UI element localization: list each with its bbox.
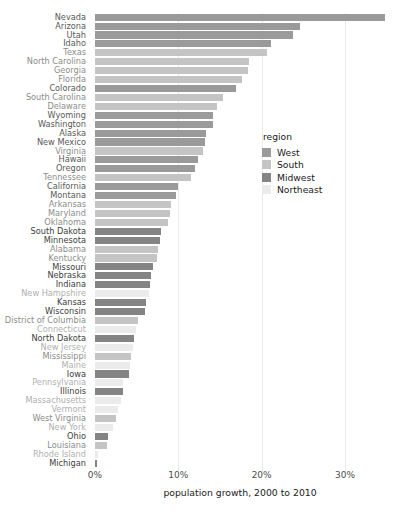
bar-row — [95, 102, 385, 111]
bar-row — [95, 263, 385, 272]
bar-row — [95, 281, 385, 290]
legend-label: Northeast — [277, 184, 322, 195]
category-axis-labels: NevadaArizonaUtahIdahoTexasNorth Carolin… — [0, 13, 90, 468]
bar-row — [95, 31, 385, 40]
bar-row — [95, 272, 385, 281]
bar — [95, 353, 131, 360]
bar-row — [95, 67, 385, 76]
bar-row — [95, 40, 385, 49]
bar-row — [95, 218, 385, 227]
bar — [95, 40, 271, 47]
x-tick-label: 0% — [88, 470, 102, 480]
bar-row — [95, 84, 385, 93]
bar-row — [95, 423, 385, 432]
bar — [95, 415, 116, 422]
bar — [95, 433, 108, 440]
bar — [95, 308, 145, 315]
legend-item-northeast[interactable]: Northeast — [262, 184, 358, 197]
bar — [95, 442, 107, 449]
bar — [95, 299, 146, 306]
plot-area — [95, 13, 385, 468]
legend-swatch-icon — [262, 160, 271, 169]
bar-row — [95, 49, 385, 58]
bar — [95, 228, 161, 235]
bar-row — [95, 13, 385, 22]
bar-row — [95, 236, 385, 245]
bar-row — [95, 325, 385, 334]
bar — [95, 290, 149, 297]
bar — [95, 246, 158, 253]
bar-row — [95, 227, 385, 236]
bar — [95, 201, 171, 208]
bar — [95, 23, 300, 30]
x-tick-label: 30% — [335, 470, 355, 480]
legend-item-west[interactable]: West — [262, 146, 358, 159]
bar-row — [95, 432, 385, 441]
bar — [95, 388, 123, 395]
bar-row — [95, 22, 385, 31]
bar — [95, 165, 195, 172]
bar — [95, 85, 236, 92]
legend-items: WestSouthMidwestNortheast — [262, 146, 358, 196]
bar — [95, 76, 242, 83]
bar-row — [95, 120, 385, 129]
legend-swatch-icon — [262, 148, 271, 157]
population-growth-bar-chart: NevadaArizonaUtahIdahoTexasNorth Carolin… — [0, 0, 400, 514]
x-tick-label: 20% — [252, 470, 272, 480]
legend-item-midwest[interactable]: Midwest — [262, 171, 358, 184]
bar — [95, 138, 205, 145]
bar — [95, 121, 213, 128]
bar — [95, 174, 191, 181]
bar-row — [95, 254, 385, 263]
bar — [95, 379, 123, 386]
legend: region WestSouthMidwestNortheast — [262, 131, 358, 196]
bar — [95, 254, 157, 261]
bar-row — [95, 361, 385, 370]
bar-row — [95, 307, 385, 316]
bar-row — [95, 379, 385, 388]
bar-row — [95, 245, 385, 254]
bar-row — [95, 290, 385, 299]
bar-row — [95, 370, 385, 379]
bar — [95, 156, 198, 163]
legend-swatch-icon — [262, 173, 271, 182]
bar — [95, 344, 133, 351]
bar — [95, 281, 150, 288]
bar — [95, 103, 217, 110]
bar-row — [95, 75, 385, 84]
bar-rows — [95, 13, 385, 468]
bar — [95, 406, 118, 413]
bar — [95, 272, 151, 279]
bar — [95, 49, 267, 56]
bar — [95, 210, 170, 217]
bar — [95, 370, 129, 377]
bar — [95, 219, 168, 226]
bar-row — [95, 441, 385, 450]
bar-row — [95, 93, 385, 102]
bar — [95, 94, 223, 101]
bar — [95, 31, 293, 38]
x-axis-title: population growth, 2000 to 2010 — [95, 487, 385, 498]
bar-row — [95, 397, 385, 406]
bar-row — [95, 450, 385, 459]
legend-swatch-icon — [262, 185, 271, 194]
bar — [95, 362, 130, 369]
bar-row — [95, 316, 385, 325]
bar-row — [95, 414, 385, 423]
legend-item-south[interactable]: South — [262, 159, 358, 172]
x-tick-label: 10% — [168, 470, 188, 480]
bar-row — [95, 111, 385, 120]
category-label: Michigan — [49, 459, 86, 468]
bar-row — [95, 334, 385, 343]
bar — [95, 317, 138, 324]
bar — [95, 335, 134, 342]
bar — [95, 58, 249, 65]
legend-label: Midwest — [277, 172, 315, 183]
bar — [95, 460, 97, 467]
bar — [95, 183, 178, 190]
bar — [95, 424, 113, 431]
bar — [95, 237, 160, 244]
bar-row — [95, 388, 385, 397]
bar — [95, 397, 121, 404]
legend-label: West — [277, 147, 300, 158]
